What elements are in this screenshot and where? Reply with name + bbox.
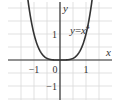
x-tick-label: 0 [53, 64, 58, 75]
y-tick-label: −1 [46, 81, 57, 92]
x-axis-label: x [105, 46, 111, 58]
axes [8, 2, 112, 100]
x-tick-label: −1 [29, 64, 40, 75]
x-tick-label: 1 [84, 64, 89, 75]
chart-plot: x y −101 1−1 y=x4 [0, 0, 120, 102]
y-tick-label: 1 [52, 29, 57, 40]
y-axis-label: y [62, 2, 68, 14]
